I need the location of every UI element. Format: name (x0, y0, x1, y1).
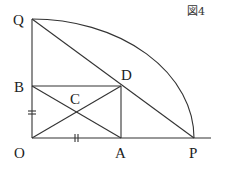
segment-QP (32, 19, 194, 138)
label-C: C (70, 91, 80, 107)
label-A: A (115, 145, 126, 161)
label-P: P (189, 145, 197, 161)
figure-canvas: Q B C D O A P 図4 (0, 0, 225, 170)
geometry-figure: Q B C D O A P 図4 (0, 0, 225, 170)
label-B: B (14, 79, 24, 95)
label-Q: Q (13, 12, 24, 28)
label-D: D (121, 67, 132, 83)
label-O: O (14, 145, 25, 161)
figure-caption: 図4 (187, 5, 205, 18)
